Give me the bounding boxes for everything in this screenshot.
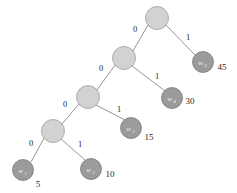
leaf-node-w3 xyxy=(121,118,142,139)
internal-node-n2 xyxy=(113,47,136,70)
edge-label-n3-left: 0 xyxy=(63,99,67,109)
leaf-node-w5 xyxy=(193,52,214,73)
leaf-symbol-w5: w xyxy=(198,59,203,67)
internal-node-n3 xyxy=(77,86,100,109)
huffman-tree-diagram: w5w4w3w2w1 01010101 453015105 xyxy=(0,0,237,193)
edge-label-n3-right: 1 xyxy=(117,104,121,114)
weight-label-w5: 45 xyxy=(218,62,228,72)
edge-label-n4-left: 0 xyxy=(29,138,33,148)
weight-label-w2: 10 xyxy=(106,169,116,179)
internal-nodes-group xyxy=(42,7,169,143)
leaf-nodes-group: w5w4w3w2w1 xyxy=(13,52,214,181)
leaf-symbol-w2: w xyxy=(86,166,91,174)
leaf-symbol-w1: w xyxy=(18,167,23,175)
edge-label-n2-right: 1 xyxy=(155,71,159,81)
tree-edge-n2-right xyxy=(132,66,165,91)
internal-node-root xyxy=(146,7,169,30)
weight-label-w3: 15 xyxy=(145,132,155,142)
edge-label-n4-right: 1 xyxy=(78,139,82,149)
edge-label-root-right: 1 xyxy=(186,32,190,42)
leaf-node-w4 xyxy=(162,88,183,109)
leaf-symbol-w4: w xyxy=(167,95,172,103)
leaf-symbol-w3: w xyxy=(126,125,131,133)
edge-label-root-left: 0 xyxy=(133,24,137,34)
internal-node-n4 xyxy=(42,120,65,143)
leaf-node-w1 xyxy=(13,160,34,181)
tree-edge-root-right xyxy=(166,25,195,55)
leaf-node-w2 xyxy=(81,159,102,180)
weight-label-w1: 5 xyxy=(36,179,41,189)
leaf-subscript-w1: 1 xyxy=(24,171,27,176)
edge-label-n2-left: 0 xyxy=(99,63,103,73)
weight-label-w4: 30 xyxy=(186,96,196,106)
